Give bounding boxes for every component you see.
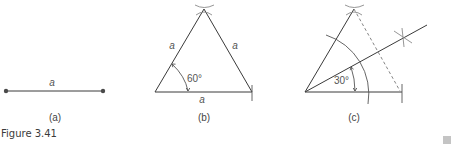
panel-b: a a a 60° (b) xyxy=(155,5,252,123)
bisector-ray xyxy=(305,25,427,92)
figure-caption: Figure 3.41 xyxy=(1,128,57,139)
panel-label-b: (b) xyxy=(198,112,210,123)
apex-arc-2 xyxy=(346,12,362,15)
panel-a: a (a) xyxy=(4,77,105,123)
endpoint-left xyxy=(4,89,8,93)
angle-label-30: 30° xyxy=(334,75,349,86)
panel-c: 30° (c) xyxy=(305,5,427,123)
figure-diagram: a (a) a a a 60° (b) xyxy=(0,0,454,144)
angle-label-60: 60° xyxy=(187,73,202,84)
panel-label-c: (c) xyxy=(348,112,360,123)
triangle-right-side xyxy=(204,9,252,92)
angle-arc-60 xyxy=(172,64,188,91)
angle-arc-30 xyxy=(351,67,355,91)
corner-marker xyxy=(443,136,451,144)
side-label-left: a xyxy=(169,40,175,51)
panel-label-a: (a) xyxy=(49,112,61,123)
dashed-chord xyxy=(354,9,400,91)
side-label-right: a xyxy=(232,40,238,51)
endpoint-right xyxy=(101,89,105,93)
segment-label: a xyxy=(49,77,55,88)
apex-arc-1 xyxy=(345,5,364,8)
side-label-base: a xyxy=(199,94,205,105)
apex-arc-2 xyxy=(196,12,212,15)
apex-arc-1 xyxy=(195,5,214,8)
